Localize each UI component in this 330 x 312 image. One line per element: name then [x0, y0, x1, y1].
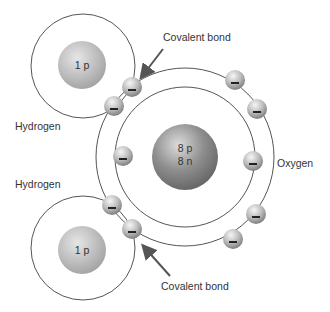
- hydrogen-top-nucleus-label: 1 p: [75, 59, 90, 71]
- electron-icon: [122, 77, 142, 97]
- covalent-bond-bottom-label: Covalent bond: [161, 280, 229, 292]
- electron-icon: [246, 204, 266, 224]
- oxygen-nucleus-label-neutrons: 8 n: [178, 155, 193, 167]
- electron-icon: [104, 96, 124, 116]
- oxygen-nucleus-label-protons: 8 p: [178, 142, 193, 154]
- electron-icon: [225, 70, 245, 90]
- oxygen-label: Oxygen: [277, 157, 313, 169]
- covalent-bond-top-label: Covalent bond: [163, 31, 231, 43]
- electron-icon: [122, 219, 142, 239]
- hydrogen-bottom-label: Hydrogen: [15, 178, 61, 190]
- hydrogen-top-label: Hydrogen: [15, 120, 61, 132]
- hydrogen-bottom-nucleus-label: 1 p: [75, 244, 90, 256]
- electron-icon: [247, 99, 267, 119]
- water-molecule-diagram: 1 p 8 p 8 n 1 p: [0, 0, 330, 312]
- electron-icon: [223, 229, 243, 249]
- electron-icon: [243, 151, 263, 171]
- covalent-bond-bottom-arrow: [145, 248, 170, 276]
- electron-icon: [113, 146, 133, 166]
- electron-icon: [102, 195, 122, 215]
